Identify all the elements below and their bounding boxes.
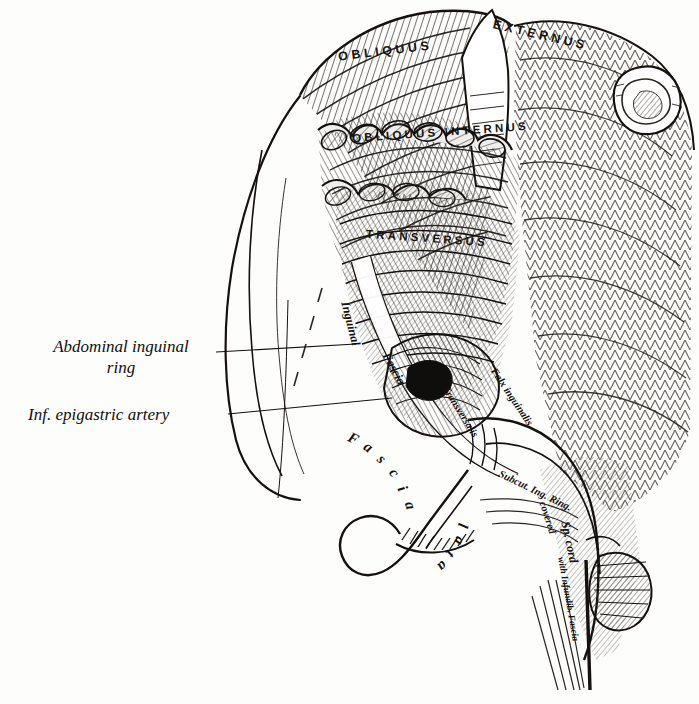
leader-line-abdominal-ring — [216, 344, 356, 352]
callout-abdominal-inguinal-ring: Abdominal inguinal ring — [28, 336, 214, 378]
umbilicus-detail — [614, 66, 681, 134]
callout-line-1: Abdominal inguinal — [28, 336, 214, 357]
anatomical-figure: Abdominal inguinal ring Inf. epigastric … — [0, 0, 699, 704]
callout-inf-epigastric-artery: Inf. epigastric artery — [28, 404, 169, 425]
callout-line-2: ring — [28, 357, 214, 378]
leader-line-epigastric-artery — [228, 398, 392, 414]
